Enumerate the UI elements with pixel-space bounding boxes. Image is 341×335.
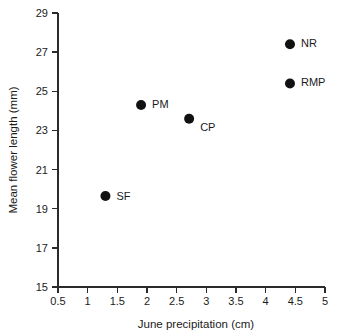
x-axis-ticks: 0.511.522.533.544.55: [50, 287, 328, 307]
data-point-label: SF: [116, 190, 130, 202]
axes-group: [58, 13, 325, 287]
data-points-group: SFPMCPRMPNR: [100, 37, 325, 202]
scatter-plot-figure: 1517192123252729 0.511.522.533.544.55 SF…: [0, 0, 341, 335]
y-tick-label: 17: [36, 242, 48, 254]
data-point-label: NR: [301, 37, 317, 49]
x-tick-label: 2.5: [169, 295, 184, 307]
data-point[interactable]: RMP: [285, 76, 325, 88]
y-axis-ticks: 1517192123252729: [36, 7, 58, 293]
x-tick-label: 4: [263, 295, 269, 307]
y-tick-label: 27: [36, 46, 48, 58]
data-point[interactable]: NR: [285, 37, 317, 49]
data-point-marker[interactable]: [285, 39, 295, 49]
data-point[interactable]: PM: [136, 98, 169, 110]
plot-canvas: 1517192123252729 0.511.522.533.544.55 SF…: [0, 0, 341, 335]
x-tick-label: 5: [322, 295, 328, 307]
x-tick-label: 1: [85, 295, 91, 307]
data-point-label: RMP: [301, 76, 325, 88]
y-tick-label: 25: [36, 85, 48, 97]
data-point-marker[interactable]: [285, 78, 295, 88]
data-point-marker[interactable]: [136, 100, 146, 110]
y-tick-label: 23: [36, 124, 48, 136]
x-tick-label: 1.5: [110, 295, 125, 307]
x-tick-label: 3: [203, 295, 209, 307]
data-point-marker[interactable]: [100, 191, 110, 201]
y-axis-title: Mean flower length (mm): [7, 86, 19, 213]
data-point-marker[interactable]: [184, 114, 194, 124]
x-tick-label: 4.5: [288, 295, 303, 307]
x-tick-label: 2: [144, 295, 150, 307]
data-point[interactable]: SF: [100, 190, 130, 202]
x-tick-label: 0.5: [50, 295, 65, 307]
y-tick-label: 15: [36, 281, 48, 293]
data-point[interactable]: CP: [184, 114, 215, 133]
y-tick-label: 19: [36, 203, 48, 215]
y-tick-label: 29: [36, 7, 48, 19]
data-point-label: PM: [152, 98, 169, 110]
y-tick-label: 21: [36, 164, 48, 176]
data-point-label: CP: [200, 121, 215, 133]
x-tick-label: 3.5: [228, 295, 243, 307]
x-axis-title: June precipitation (cm): [138, 318, 254, 330]
